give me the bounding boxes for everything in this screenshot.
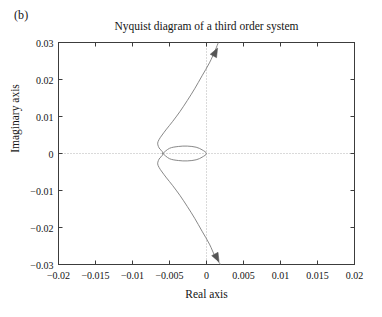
x-tick-label: −0.01 — [121, 270, 144, 281]
y-tick-label: 0.02 — [6, 74, 54, 85]
x-tick-label: 0 — [204, 270, 209, 281]
x-tick-label: 0.005 — [232, 270, 255, 281]
x-tick-label: −0.005 — [155, 270, 183, 281]
y-tick-label: 0.01 — [6, 111, 54, 122]
y-tick-label: 0.03 — [6, 37, 54, 48]
x-tick-label: 0.015 — [306, 270, 329, 281]
y-tick-label: −0.02 — [6, 222, 54, 233]
x-tick-label: −0.02 — [47, 270, 70, 281]
lower-direction-arrow — [212, 252, 219, 262]
y-tick-label: −0.03 — [6, 259, 54, 270]
y-tick-label: −0.01 — [6, 185, 54, 196]
y-tick-label: 0 — [6, 148, 54, 159]
upper-direction-arrow — [210, 48, 217, 58]
nyquist-curve-2 — [158, 154, 221, 265]
nyquist-figure: (b) Nyquist diagram of a third order sys… — [0, 0, 382, 317]
x-tick-label: −0.015 — [81, 270, 109, 281]
x-tick-label: 0.01 — [272, 270, 290, 281]
x-tick-label: 0.02 — [346, 270, 364, 281]
nyquist-curve-1 — [158, 43, 219, 154]
